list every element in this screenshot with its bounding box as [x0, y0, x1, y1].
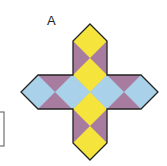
cross-net-diagram: [0, 0, 167, 166]
partial-box: [0, 112, 4, 146]
center-crossing: [73, 75, 107, 109]
